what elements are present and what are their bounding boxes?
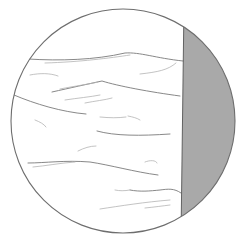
magnified-field-diagram	[0, 0, 242, 240]
shaded-region	[181, 4, 242, 238]
diagram-canvas	[0, 0, 242, 240]
